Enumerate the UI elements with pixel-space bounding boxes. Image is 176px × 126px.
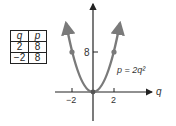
- point-neg2-8: [69, 49, 74, 54]
- x-tick-label-neg2: −2: [66, 95, 76, 105]
- point-2-8: [111, 49, 116, 54]
- parabola-graph: 8 −2 2 q p = 2q²: [0, 0, 176, 126]
- x-tick-label-2: 2: [111, 95, 116, 105]
- equation-label: p = 2q²: [116, 65, 146, 75]
- point-origin: [91, 90, 96, 95]
- parabola-curve: [93, 23, 120, 92]
- x-axis-label: q: [156, 86, 162, 97]
- y-tick-label: 8: [84, 47, 90, 58]
